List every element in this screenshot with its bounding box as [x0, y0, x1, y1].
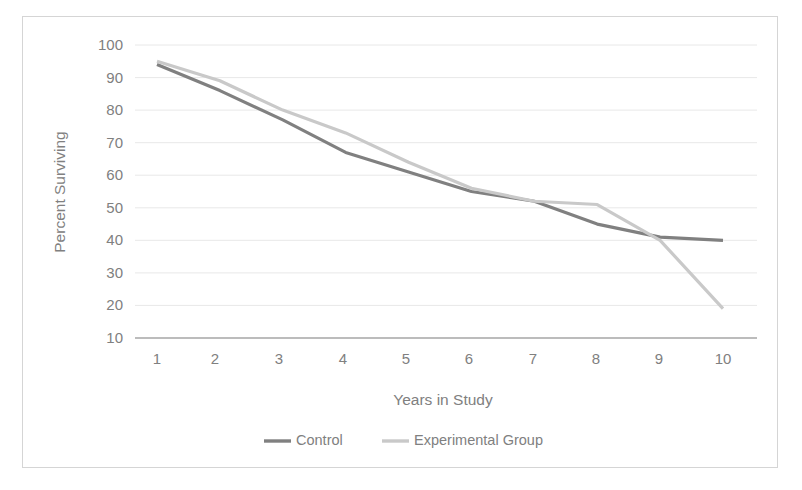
y-tick-label-10: 10 — [106, 329, 123, 346]
y-tick-label-20: 20 — [106, 296, 123, 313]
chart-legend: Control Experimental Group — [264, 432, 543, 448]
x-tick-label-9: 9 — [655, 350, 663, 367]
x-tick-label-5: 5 — [402, 350, 410, 367]
y-tick-label-50: 50 — [106, 199, 123, 216]
y-axis-title: Percent Surviving — [51, 131, 68, 252]
x-axis-tick-labels: 1 2 3 4 5 6 7 8 9 10 — [153, 350, 732, 367]
x-tick-label-8: 8 — [592, 350, 600, 367]
x-axis-title: Years in Study — [393, 391, 493, 408]
y-tick-label-40: 40 — [106, 231, 123, 248]
chart-frame: 100 90 80 70 60 50 40 30 20 10 1 2 3 4 5… — [22, 16, 778, 468]
series-line-experimental-group — [157, 61, 723, 308]
legend-label-control: Control — [296, 432, 343, 448]
y-axis-tick-labels: 100 90 80 70 60 50 40 30 20 10 — [98, 36, 123, 346]
y-tick-label-70: 70 — [106, 134, 123, 151]
x-tick-label-2: 2 — [211, 350, 219, 367]
x-tick-label-4: 4 — [339, 350, 347, 367]
survival-line-chart: 100 90 80 70 60 50 40 30 20 10 1 2 3 4 5… — [23, 17, 779, 469]
x-tick-label-6: 6 — [465, 350, 473, 367]
series-lines — [157, 61, 723, 308]
y-tick-label-60: 60 — [106, 166, 123, 183]
y-tick-label-90: 90 — [106, 69, 123, 86]
y-tick-label-30: 30 — [106, 264, 123, 281]
chart-plot-area: 100 90 80 70 60 50 40 30 20 10 1 2 3 4 5… — [23, 17, 779, 469]
y-tick-label-100: 100 — [98, 36, 123, 53]
x-tick-label-1: 1 — [153, 350, 161, 367]
legend-label-experimental-group: Experimental Group — [414, 432, 543, 448]
y-tick-label-80: 80 — [106, 101, 123, 118]
x-tick-label-10: 10 — [715, 350, 732, 367]
x-tick-label-3: 3 — [275, 350, 283, 367]
x-tick-label-7: 7 — [529, 350, 537, 367]
